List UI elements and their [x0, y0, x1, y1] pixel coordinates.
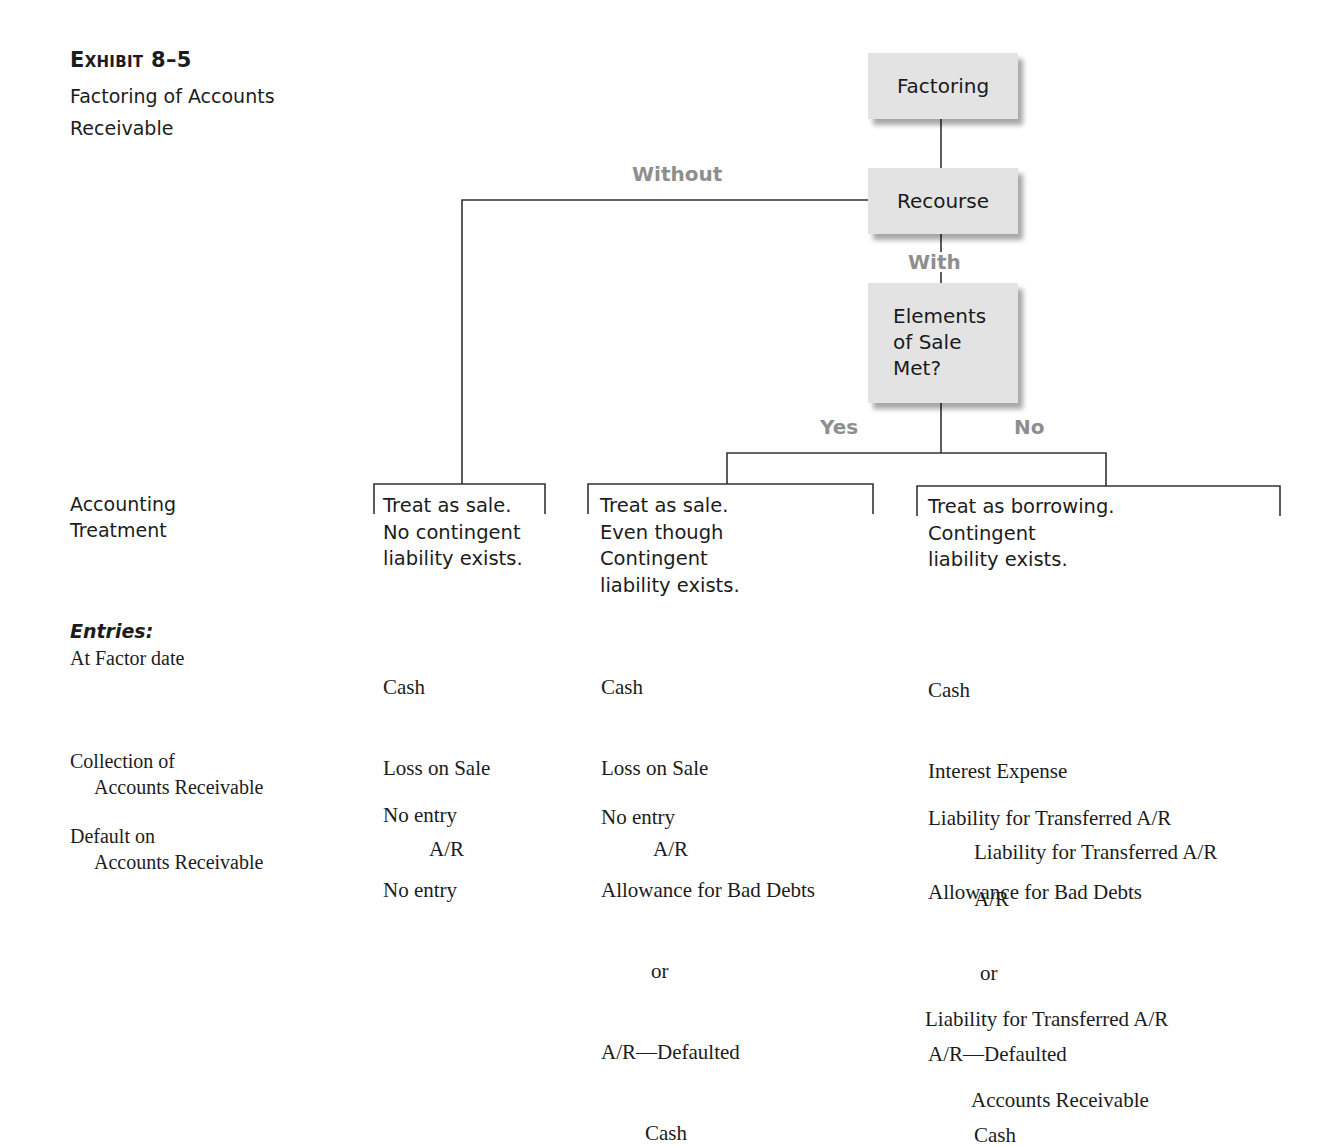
- node-factoring: Factoring: [868, 53, 1018, 119]
- entry-or: or: [601, 958, 815, 985]
- row-label-line: Accounts Receivable: [70, 774, 263, 800]
- node-recourse: Recourse: [868, 168, 1018, 234]
- entry-credit: Cash: [601, 1120, 815, 1146]
- entry-debit: Liability for Transferred A/R: [925, 1006, 1168, 1033]
- branch-label-without: Without: [632, 162, 722, 186]
- branch-label-with: With: [908, 250, 961, 274]
- treatment-line: Contingent: [928, 521, 1115, 548]
- row-label-accounting-treatment: Accounting Treatment: [70, 491, 176, 543]
- treatment-line: liability exists.: [383, 546, 523, 573]
- entry-debit: Cash: [601, 674, 708, 701]
- entry-debit: A/R—Defaulted: [601, 1039, 815, 1066]
- node-elements-line-1: Elements: [893, 303, 986, 329]
- row-label-default: Default on Accounts Receivable: [70, 823, 263, 875]
- entry-col1-default: No entry: [383, 823, 457, 931]
- row-label-collection: Collection of Accounts Receivable: [70, 748, 263, 800]
- treatment-line: liability exists.: [600, 573, 740, 600]
- branch-label-no: No: [1014, 415, 1044, 439]
- node-elements-of-sale: Elements of Sale Met?: [868, 283, 1018, 403]
- node-elements-line-3: Met?: [893, 355, 986, 381]
- row-label-at-factor-date: At Factor date: [70, 645, 184, 671]
- entry-debit: Allowance for Bad Debts: [601, 877, 815, 904]
- connector-without-branch: [462, 200, 868, 484]
- treatment-line: No contingent: [383, 520, 523, 547]
- treatment-column-1: Treat as sale. No contingent liability e…: [383, 493, 523, 573]
- treatment-line: Treat as borrowing.: [928, 494, 1115, 521]
- connector-yes-no-bar: [727, 453, 1106, 486]
- entry-debit: Allowance for Bad Debts: [928, 879, 1142, 906]
- branch-label-yes: Yes: [820, 415, 858, 439]
- row-label-line: Accounts Receivable: [70, 849, 263, 875]
- entries-heading: Entries:: [70, 620, 153, 642]
- treatment-column-2: Treat as sale. Even though Contingent li…: [600, 493, 740, 599]
- row-label-line: Default on: [70, 823, 263, 849]
- entry-debit: Cash: [383, 674, 490, 701]
- treatment-line: Treat as sale.: [600, 493, 740, 520]
- node-elements-line-2: of Sale: [893, 329, 986, 355]
- treatment-column-3: Treat as borrowing. Contingent liability…: [928, 494, 1115, 574]
- entry-text: No entry: [383, 877, 457, 904]
- treatment-line: liability exists.: [928, 547, 1115, 574]
- entry-credit: Accounts Receivable: [925, 1087, 1168, 1114]
- row-label-line: Collection of: [70, 748, 263, 774]
- treatment-line: Even though: [600, 520, 740, 547]
- treatment-line: Contingent: [600, 546, 740, 573]
- treatment-line: Treat as sale.: [383, 493, 523, 520]
- row-label-line: Accounting: [70, 491, 176, 517]
- node-recourse-label: Recourse: [897, 189, 989, 213]
- row-label-line: Treatment: [70, 517, 176, 543]
- node-factoring-label: Factoring: [897, 74, 989, 98]
- entry-debit: Cash: [928, 677, 1217, 704]
- entry-col2-default: Allowance for Bad Debts or A/R—Defaulted…: [601, 823, 815, 1146]
- entry-col3-default-extra: Liability for Transferred A/R Accounts R…: [925, 952, 1168, 1141]
